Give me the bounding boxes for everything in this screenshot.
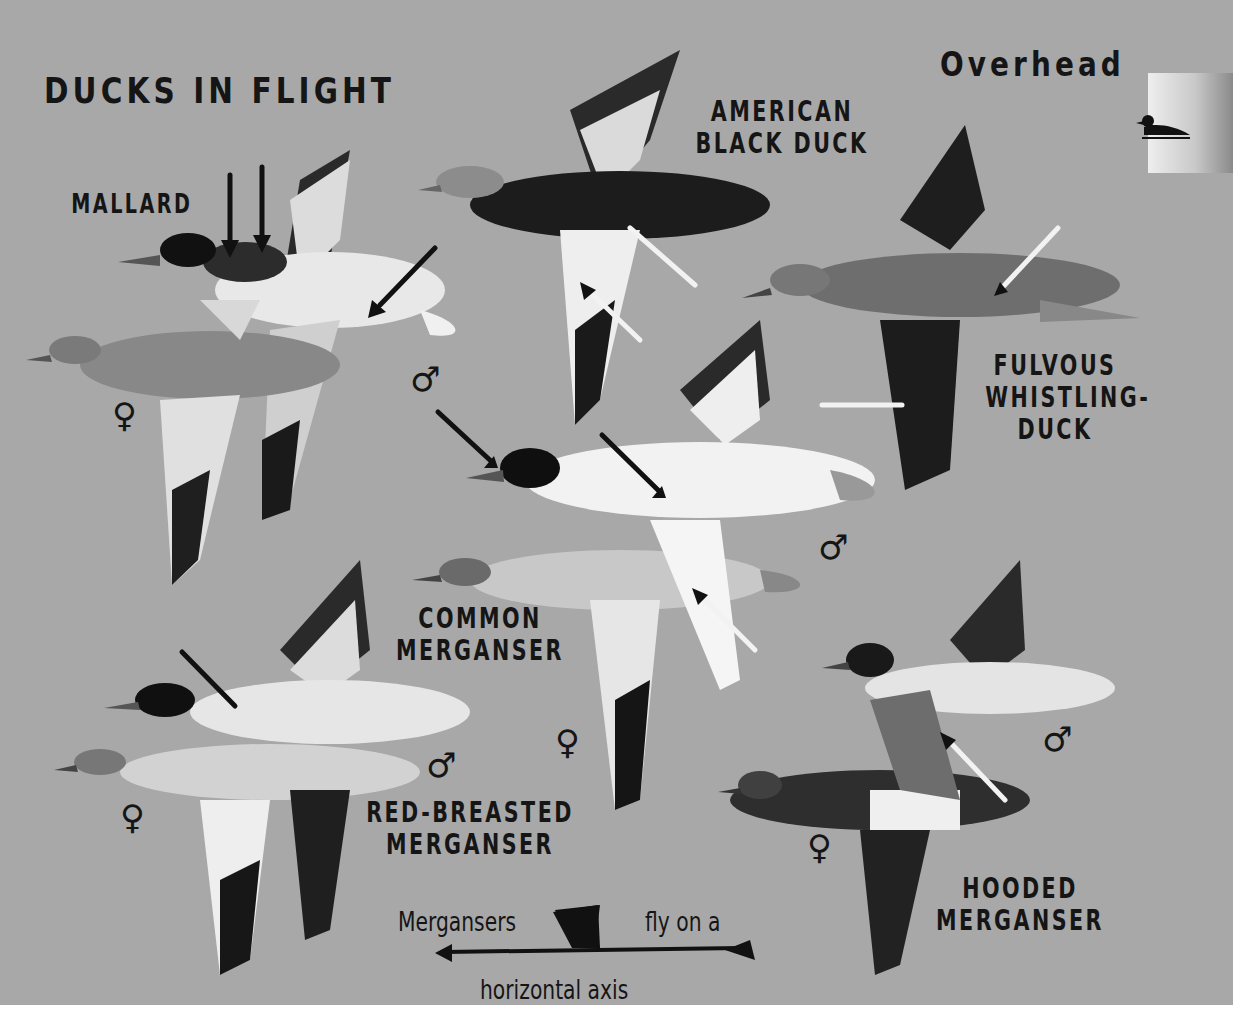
duck-illustrations [0, 0, 1233, 1005]
view-label: Overhead [940, 44, 1125, 84]
species-label-american-black-duck: AMERICAN BLACK DUCK [672, 96, 892, 160]
arrow-icon [438, 412, 498, 468]
page-title: DUCKS IN FLIGHT [44, 70, 395, 111]
axis-note-part1: Mergansers [398, 907, 516, 937]
species-label-fulvous-whistling-duck: FULVOUS WHISTLING- DUCK [970, 350, 1140, 447]
male-symbol-icon: ♂ [426, 748, 456, 782]
species-label-common-merganser: COMMON MERGANSER [370, 603, 590, 667]
male-symbol-icon: ♂ [818, 530, 848, 564]
species-label-hooded-merganser: HOODED MERGANSER [900, 873, 1140, 937]
field-guide-page: DUCKS IN FLIGHT Overhead MALLARD AMERICA… [0, 0, 1233, 1005]
female-symbol-icon: ♀ [555, 725, 580, 759]
axis-note-part3: horizontal axis [480, 975, 628, 1005]
section-tab[interactable] [1148, 73, 1233, 173]
common-merganser-illustration [412, 320, 875, 810]
arrow-icon [253, 167, 271, 253]
axis-note-part2: fly on a [645, 907, 720, 937]
duck-silhouette-icon [1134, 109, 1194, 149]
female-symbol-icon: ♀ [112, 398, 137, 432]
male-symbol-icon: ♂ [1042, 722, 1072, 756]
species-label-mallard: MALLARD [58, 190, 206, 220]
female-symbol-icon: ♀ [120, 800, 145, 834]
female-symbol-icon: ♀ [807, 830, 832, 864]
species-label-red-breasted-merganser: RED-BREASTED MERGANSER [340, 797, 600, 861]
male-symbol-icon: ♂ [410, 362, 440, 396]
